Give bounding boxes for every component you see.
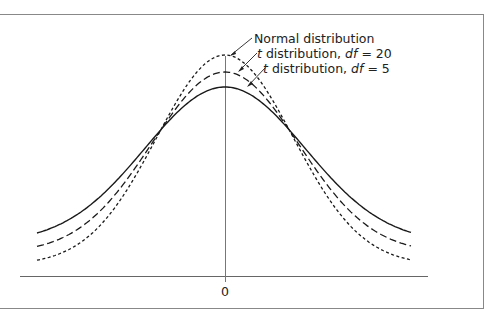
t5-distribution-curve: [37, 87, 411, 233]
label-t20: t distribution, df = 20: [257, 46, 392, 61]
normal-distribution-curve: [37, 55, 411, 260]
label-normal: Normal distribution: [254, 31, 374, 46]
label-t5: t distribution, df = 5: [263, 61, 390, 76]
arrowhead-icon: [230, 51, 236, 56]
zero-tick-label: 0: [221, 284, 229, 299]
chart: 0 Normal distribution t distribution, df…: [0, 0, 503, 317]
t20-distribution-curve: [37, 72, 411, 246]
